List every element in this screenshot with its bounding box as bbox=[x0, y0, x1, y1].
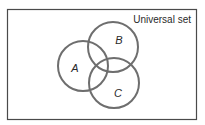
set-c-label: C bbox=[114, 87, 122, 99]
set-b-label: B bbox=[115, 34, 122, 46]
universal-set-frame bbox=[8, 10, 197, 120]
set-a-label: A bbox=[70, 62, 78, 74]
venn-diagram: Universal set A B C bbox=[0, 0, 205, 125]
universal-set-label: Universal set bbox=[133, 14, 191, 25]
